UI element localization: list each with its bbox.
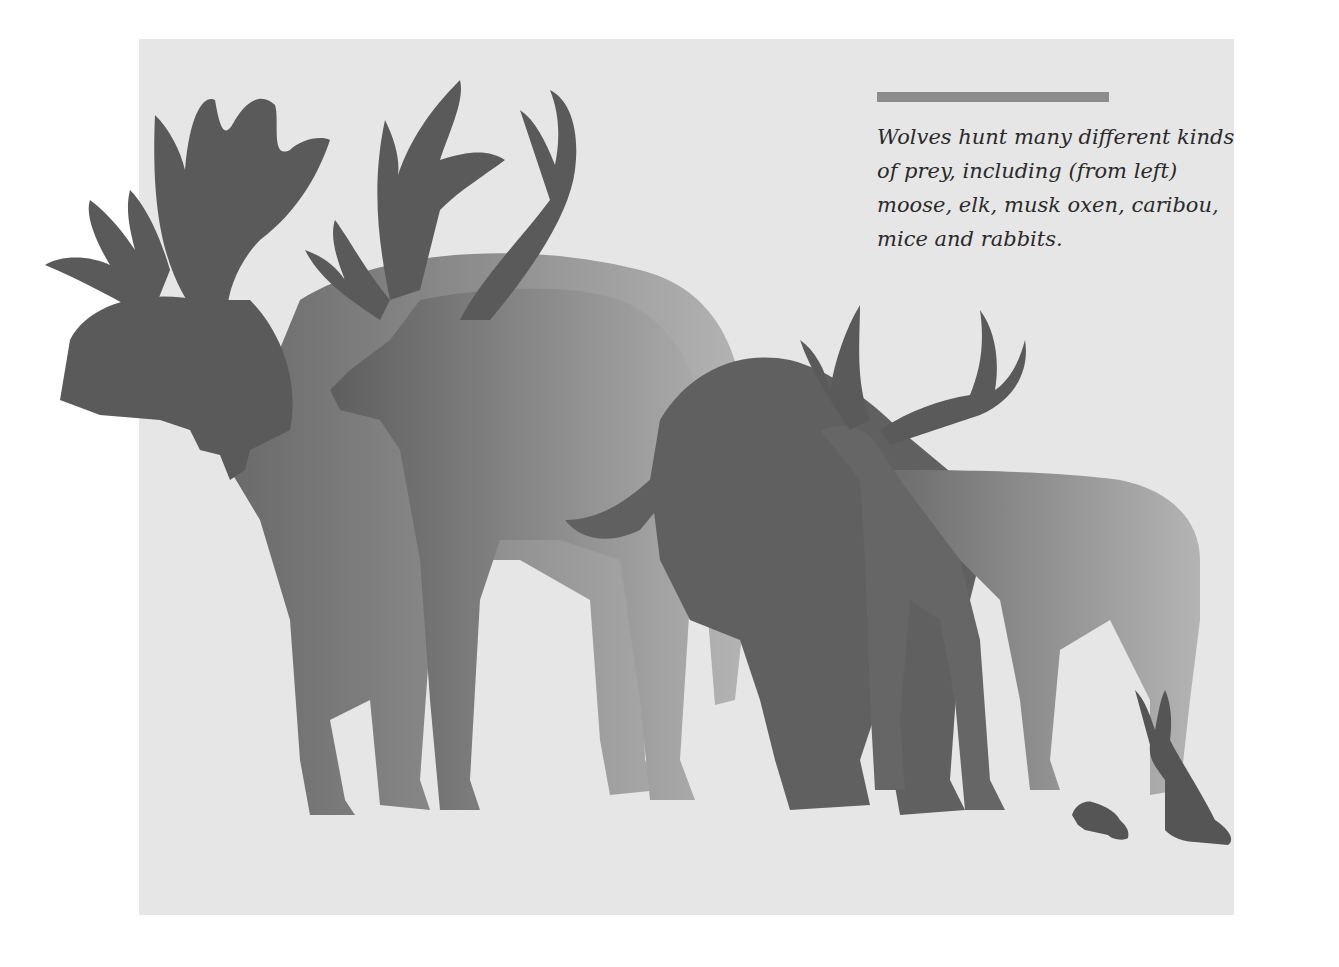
caption-text: Wolves hunt many different kinds of prey… (877, 120, 1257, 256)
caption-rule (877, 92, 1109, 102)
mouse-icon (1072, 802, 1128, 840)
